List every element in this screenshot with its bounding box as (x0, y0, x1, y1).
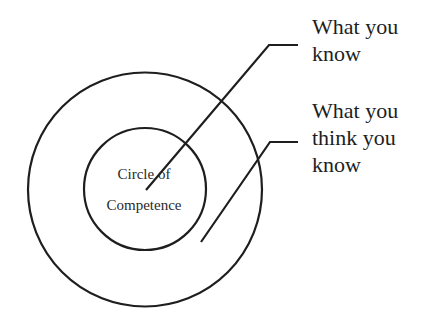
outer-circle (28, 73, 262, 307)
callout-line: What you (312, 13, 398, 40)
inner-circle (84, 128, 206, 250)
callout-line: think you (312, 124, 398, 151)
inner-circle-label-line-1: Circle of (84, 166, 204, 183)
inner-circle-label-line-2: Competence (84, 197, 204, 214)
callout-what-you-think-you-know: What you think you know (312, 97, 398, 178)
callout-line: What you (312, 97, 398, 124)
callout-what-you-know: What you know (312, 13, 398, 67)
callout-line: know (312, 151, 398, 178)
callout-line: know (312, 40, 398, 67)
leader-line-what-you-think-you-know (201, 142, 298, 242)
